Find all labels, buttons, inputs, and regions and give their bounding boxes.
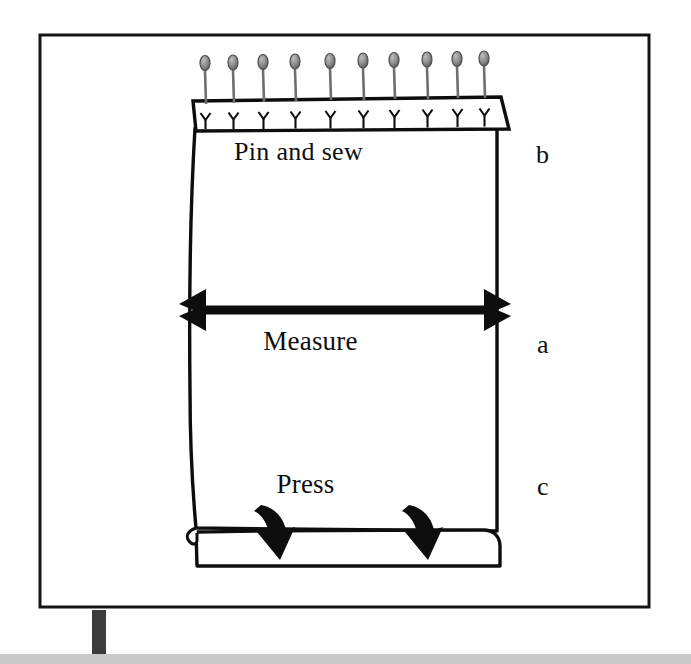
stand-post xyxy=(92,610,106,655)
label-press: Press xyxy=(0,471,651,498)
pin-band xyxy=(193,97,509,131)
part-label-c: c xyxy=(537,474,549,500)
label-measure: Measure xyxy=(0,328,656,355)
figure-canvas: Pin and sew Measure Press b a c xyxy=(0,0,691,664)
floor-strip xyxy=(0,654,691,664)
part-label-b: b xyxy=(536,142,549,168)
part-label-a: a xyxy=(537,332,549,358)
hem-fold xyxy=(196,530,500,566)
